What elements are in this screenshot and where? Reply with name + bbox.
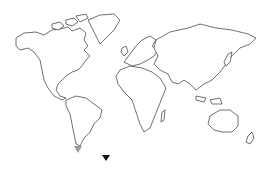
new-zealand	[246, 132, 254, 144]
indonesia	[196, 96, 222, 104]
australia	[208, 110, 238, 132]
africa	[116, 66, 166, 132]
south-america	[66, 96, 102, 146]
ocean-marker[interactable]	[102, 155, 110, 161]
asia	[154, 24, 256, 90]
arctic-islands	[52, 14, 88, 30]
british-isles	[121, 46, 128, 56]
madagascar	[161, 110, 165, 122]
europe	[124, 36, 158, 66]
greenland	[88, 14, 120, 44]
north-america	[16, 27, 90, 100]
south-america-tip-marker[interactable]	[74, 146, 82, 153]
world-map	[0, 0, 271, 169]
